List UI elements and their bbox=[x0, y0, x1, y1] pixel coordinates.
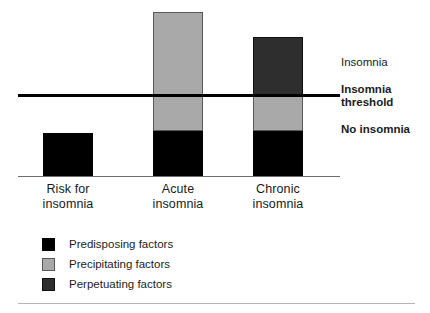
legend-item-precipitating-factors[interactable]: Precipitating factors bbox=[42, 254, 173, 274]
legend-swatch-icon bbox=[42, 258, 55, 271]
insomnia-stacked-bar-figure: Risk for insomnia Acute insomnia Chronic… bbox=[0, 0, 430, 313]
zone-label-insomnia-text: Insomnia bbox=[341, 56, 388, 69]
bar-segment-perpetuating bbox=[253, 37, 303, 96]
bar-segment-precipitating bbox=[253, 96, 303, 131]
x-axis-baseline bbox=[18, 176, 340, 177]
x-axis-label-line-2: insomnia bbox=[223, 197, 333, 212]
insomnia-threshold-line bbox=[18, 94, 340, 97]
x-axis-label-chronic-insomnia: Chronic insomnia bbox=[223, 182, 333, 211]
zone-label-no-insomnia: No insomnia bbox=[341, 123, 410, 136]
legend-swatch-icon bbox=[42, 238, 55, 251]
zone-label-insomnia-threshold: Insomnia threshold bbox=[341, 83, 393, 109]
zone-label-threshold-line-1: Insomnia bbox=[341, 83, 393, 96]
zone-label-no-insomnia-text: No insomnia bbox=[341, 123, 410, 136]
bar-segment-precipitating bbox=[153, 12, 203, 131]
x-axis-label-line-2: insomnia bbox=[13, 197, 123, 212]
legend-item-label: Predisposing factors bbox=[69, 238, 173, 251]
x-axis-label-line-1: Risk for bbox=[13, 182, 123, 197]
bar-risk-for-insomnia[interactable] bbox=[43, 133, 93, 176]
figure-bottom-rule bbox=[18, 303, 415, 304]
legend-item-predisposing-factors[interactable]: Predisposing factors bbox=[42, 234, 173, 254]
legend-swatch-icon bbox=[42, 278, 55, 291]
legend-item-label: Perpetuating factors bbox=[69, 278, 172, 291]
legend-item-label: Precipitating factors bbox=[69, 258, 170, 271]
x-axis-label-line-2: insomnia bbox=[123, 197, 233, 212]
bar-chronic-insomnia[interactable] bbox=[253, 37, 303, 176]
bar-segment-predisposing bbox=[43, 133, 93, 176]
bar-segment-predisposing bbox=[153, 131, 203, 176]
x-axis-label-line-1: Acute bbox=[123, 182, 233, 197]
x-axis-label-line-1: Chronic bbox=[223, 182, 333, 197]
zone-label-threshold-line-2: threshold bbox=[341, 96, 393, 109]
chart-legend: Predisposing factors Precipitating facto… bbox=[42, 234, 173, 294]
bar-segment-predisposing bbox=[253, 131, 303, 176]
x-axis-label-risk-for-insomnia: Risk for insomnia bbox=[13, 182, 123, 211]
legend-item-perpetuating-factors[interactable]: Perpetuating factors bbox=[42, 274, 173, 294]
zone-label-insomnia: Insomnia bbox=[341, 56, 388, 69]
x-axis-label-acute-insomnia: Acute insomnia bbox=[123, 182, 233, 211]
